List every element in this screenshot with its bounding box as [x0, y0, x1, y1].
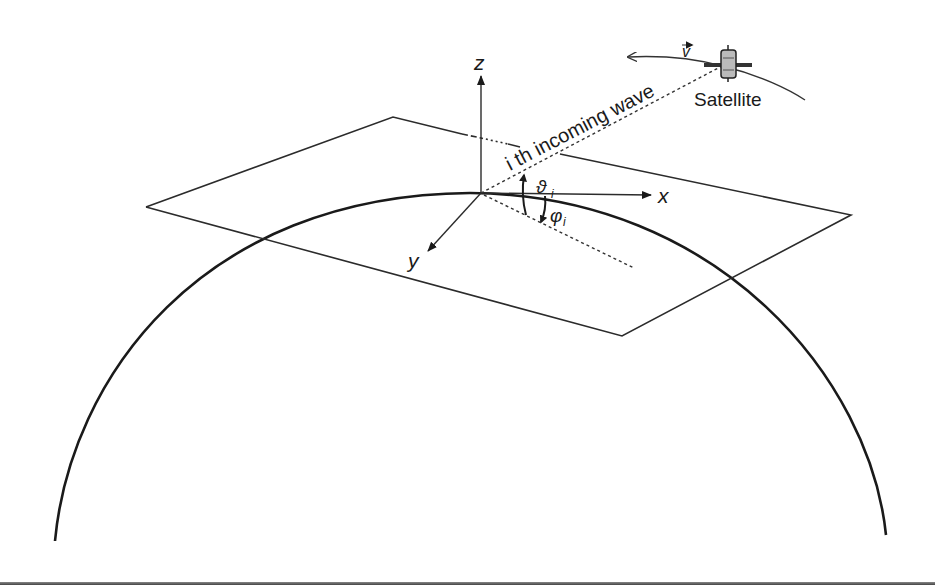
svg-text:i: i — [551, 187, 554, 201]
satellite-label: Satellite — [694, 89, 762, 110]
tangent-plane — [146, 117, 851, 336]
svg-text:v: v — [682, 43, 691, 60]
y-axis-label: y — [406, 249, 420, 272]
svg-text:i: i — [563, 215, 566, 229]
satellite-icon — [704, 45, 752, 82]
incoming-wave-ray — [481, 66, 722, 193]
z-axis-label: z — [473, 51, 485, 74]
velocity-label: v — [682, 43, 692, 60]
satellite-geometry-diagram: v Satellite z x y i th incoming wave ϑ i… — [0, 0, 935, 585]
svg-text:φ: φ — [550, 205, 562, 226]
elevation-angle-arc — [523, 175, 526, 215]
earth-surface-arc — [55, 193, 886, 541]
y-axis — [428, 193, 481, 251]
x-axis-label: x — [657, 184, 670, 207]
azimuth-angle-label: φ i — [550, 205, 566, 229]
svg-text:ϑ: ϑ — [536, 176, 547, 197]
incoming-wave-label: i th incoming wave — [502, 79, 658, 174]
